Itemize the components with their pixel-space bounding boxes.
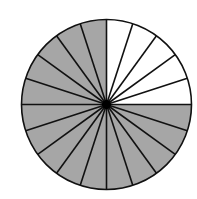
fraction-circle-diagram <box>0 0 197 199</box>
center-dot <box>102 100 111 109</box>
